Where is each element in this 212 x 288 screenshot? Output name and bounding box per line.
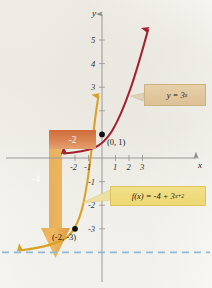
x-tick-neg2: -2 xyxy=(70,163,77,172)
shift-horizontal-box: -2 xyxy=(49,130,96,149)
y-tick-neg2: -2 xyxy=(88,201,95,210)
x-tick-2: 2 xyxy=(127,163,131,172)
y-tick-5: 5 xyxy=(91,36,95,45)
y-tick-4: 4 xyxy=(91,60,95,69)
point-label-shifted: (-2, -3) xyxy=(52,233,76,242)
x-tick-1: 1 xyxy=(113,163,117,172)
point-label-origin: (0, 1) xyxy=(107,138,125,147)
callout-fx-exponent: x+2 xyxy=(175,193,184,199)
callout-y3x-exponent: x xyxy=(185,92,188,98)
callout-f-of-x: f(x) = -4 + 3x+2 xyxy=(110,186,206,206)
x-tick-neg1: -1 xyxy=(84,163,91,172)
point-neg2-neg3 xyxy=(72,226,78,232)
shift-horizontal-label: -2 xyxy=(69,135,77,145)
y-tick-3: 3 xyxy=(91,83,95,92)
y-axis-label: y xyxy=(92,9,96,18)
y-tick-neg1: -1 xyxy=(88,178,95,187)
point-0-1 xyxy=(99,132,105,138)
callout-y3x-text: y = 3 xyxy=(167,90,185,100)
y-tick-neg3: -3 xyxy=(88,225,95,234)
figure-canvas: y x -2 -1 1 2 3 5 4 3 1 -1 -2 -3 (0, 1) … xyxy=(0,0,212,288)
x-tick-3: 3 xyxy=(140,163,144,172)
x-axis-label: x xyxy=(198,161,202,170)
callout-fx-text: f(x) = -4 + 3 xyxy=(132,191,175,201)
callout-pointer-y3x xyxy=(131,93,144,101)
callout-y-equals-3x: y = 3x xyxy=(144,84,206,106)
axes xyxy=(6,14,196,282)
graph-svg xyxy=(0,0,212,288)
shift-vertical-label: -4 xyxy=(32,174,40,184)
